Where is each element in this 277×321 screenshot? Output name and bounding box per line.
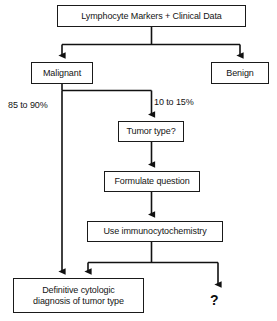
node-label: Malignant (43, 68, 81, 79)
node-tumor-type: Tumor type? (118, 121, 184, 142)
node-definitive-cytologic-diagnosis: Definitive cytologic diagnosis of tumor … (13, 278, 144, 313)
node-label: Use immunocytochemistry (103, 226, 206, 237)
node-malignant: Malignant (31, 62, 93, 84)
edge-label-left-branch: 85 to 90% (8, 100, 48, 110)
node-label: Tumor type? (126, 126, 175, 137)
node-lymphocyte-markers-clinical-data: Lymphocyte Markers + Clinical Data (57, 5, 246, 27)
node-label-line-1: Definitive cytologic (42, 285, 115, 296)
terminal-unknown-question-mark: ? (210, 292, 219, 308)
node-use-immunocytochemistry: Use immunocytochemistry (87, 221, 223, 242)
edge-label-right-branch: 10 to 15% (154, 97, 194, 107)
node-label: Formulate question (114, 176, 189, 187)
node-label: Benign (226, 68, 253, 79)
node-label-line-2: diagnosis of tumor type (33, 296, 124, 307)
flowchart-connectors (0, 0, 277, 321)
flowchart-diagram: Lymphocyte Markers + Clinical Data Malig… (0, 0, 277, 321)
node-formulate-question: Formulate question (104, 171, 200, 192)
node-benign: Benign (211, 62, 269, 84)
node-label: Lymphocyte Markers + Clinical Data (81, 11, 222, 22)
